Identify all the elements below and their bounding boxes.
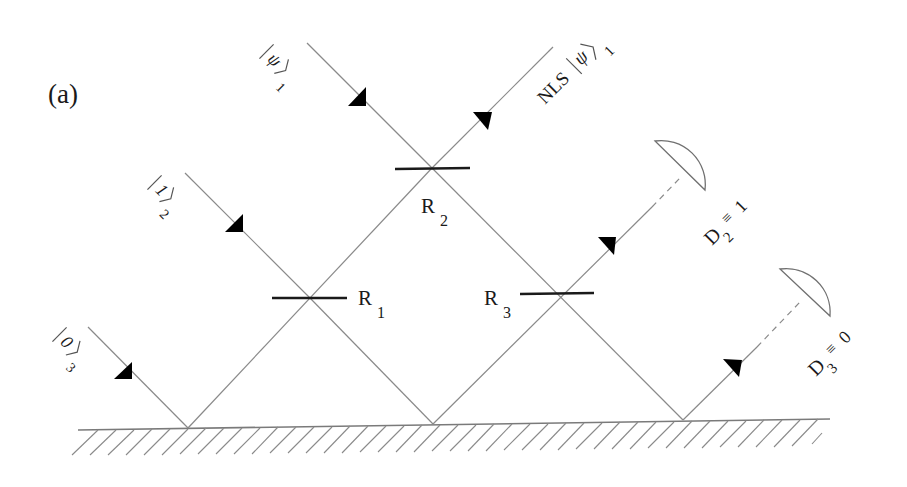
svg-text:2: 2 [157,207,173,223]
ray-d2-dashed [652,178,680,207]
label-input-psi1: ψ 1 [250,44,301,95]
label-d3: D 3 ≡ 0 [803,327,862,386]
detector-d3 [780,269,830,316]
ray-bounce2-d2 [433,207,652,424]
optical-circuit-diagram: (a) ψ 1 1 2 0 3 NLS ψ 1 R 1 R 2 R 3 [0,0,907,487]
svg-text:1: 1 [377,304,385,321]
beam-splitters [272,168,594,298]
ray-r1-bounce2 [310,298,433,424]
svg-text:1: 1 [601,42,618,59]
panel-label: (a) [48,79,78,109]
ray-d3-dashed [757,302,800,347]
arrow-one2 [225,214,243,232]
svg-text:1: 1 [273,80,289,96]
light-rays [88,43,800,428]
svg-text:≡: ≡ [822,340,840,358]
svg-text:3: 3 [503,304,511,321]
svg-text:0: 0 [834,327,855,348]
svg-text:R: R [484,286,498,310]
arrow-d3 [723,359,742,377]
svg-text:NLS: NLS [533,68,573,108]
svg-text:≡: ≡ [718,209,736,227]
label-r1: R 1 [358,286,385,321]
direction-arrows [114,87,742,379]
beam-splitter-r2 [395,168,470,169]
ray-psi1-input [307,43,432,168]
svg-text:R: R [421,194,435,218]
beam-splitter-r3 [520,293,594,294]
svg-text:R: R [358,286,372,310]
arrow-psi1 [348,87,366,106]
svg-text:1: 1 [730,196,751,217]
label-output-nls: NLS ψ 1 [532,30,618,116]
svg-text:3: 3 [824,360,841,377]
ray-zero3-input [88,327,188,428]
svg-text:2: 2 [720,229,737,246]
label-input-zero3: 0 3 [43,327,91,375]
mirror [72,419,830,455]
arrow-zero3 [114,362,132,379]
label-r3: R 3 [484,286,511,321]
svg-text:ψ: ψ [264,49,287,72]
label-input-one2: 1 2 [138,175,185,222]
ray-bounce3-d3 [683,347,757,420]
ray-one2-input [185,173,310,298]
svg-text:2: 2 [440,212,448,229]
arrow-nls [473,112,492,130]
label-d2: D 2 ≡ 1 [699,196,758,255]
label-r2: R 2 [421,194,448,229]
detector-d2 [655,141,705,190]
ray-nls-output [432,47,553,168]
svg-text:3: 3 [63,360,79,376]
